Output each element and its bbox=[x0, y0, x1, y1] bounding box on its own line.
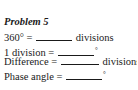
problem-title: Problem 5 bbox=[4, 16, 49, 27]
row-phase-angle: Phase angle = ° bbox=[4, 68, 106, 83]
row-unit: divisions bbox=[103, 56, 138, 67]
answer-blank[interactable] bbox=[36, 32, 72, 41]
row-difference: Difference = divisions bbox=[4, 56, 137, 68]
answer-blank[interactable] bbox=[58, 47, 94, 56]
row-unit: ° bbox=[103, 70, 106, 78]
row-unit: ° bbox=[95, 46, 98, 54]
row-label: Difference = bbox=[4, 56, 57, 67]
row-label: Phase angle = bbox=[4, 71, 62, 82]
row-label: 360° = bbox=[4, 32, 33, 43]
row-unit: divisions bbox=[76, 32, 114, 43]
answer-blank[interactable] bbox=[61, 56, 99, 65]
answer-blank[interactable] bbox=[66, 71, 102, 80]
row-360-degrees: 360° = divisions bbox=[4, 32, 114, 44]
